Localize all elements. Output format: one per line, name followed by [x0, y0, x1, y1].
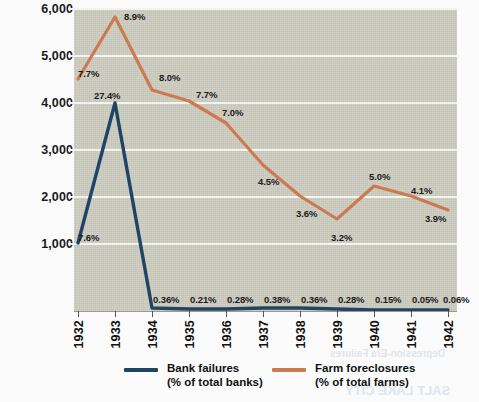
y-tick-mark-3000 — [68, 149, 74, 151]
bank-point-label-1940: 0.15% — [375, 294, 401, 305]
bank-point-label-1938: 0.36% — [301, 294, 327, 305]
farm-point-label-1941: 4.1% — [411, 185, 432, 196]
legend-item-farm-foreclosures[interactable]: Farm foreclosures (% of total farms) — [272, 362, 415, 389]
x-axis-label-1936: 1936 — [220, 320, 234, 349]
farm-point-label-1935: 7.7% — [196, 89, 217, 100]
x-axis-label-1942: 1942 — [442, 320, 456, 349]
plot-area — [74, 8, 457, 311]
bank-point-label-1935: 0.21% — [190, 294, 216, 305]
x-tick-mark-1935 — [189, 311, 190, 317]
bank-point-label-1932: 7.6% — [78, 232, 99, 243]
x-tick-mark-1933 — [115, 311, 116, 317]
farm-point-label-1932: 7.7% — [78, 68, 99, 79]
y-tick-mark-5000 — [68, 55, 74, 57]
x-tick-mark-1936 — [226, 311, 227, 317]
bank-point-label-1936: 0.28% — [227, 294, 253, 305]
gridline-5000 — [74, 55, 457, 57]
x-tick-mark-1937 — [263, 311, 264, 317]
chart-legend: Bank failures (% of total banks) Farm fo… — [0, 358, 479, 396]
gridline-1000 — [74, 243, 457, 245]
bank-point-label-1939: 0.28% — [338, 294, 364, 305]
legend-swatch-bank-failures — [124, 368, 158, 372]
x-tick-mark-1934 — [152, 311, 153, 317]
x-tick-mark-1939 — [337, 311, 338, 317]
farm-point-label-1942: 3.9% — [425, 213, 446, 224]
y-tick-mark-1000 — [68, 243, 74, 245]
legend-label-farm-foreclosures: Farm foreclosures — [315, 362, 415, 376]
farm-point-label-1934: 8.0% — [159, 72, 180, 83]
bank-point-label-1937: 0.38% — [264, 294, 290, 305]
x-tick-mark-1932 — [78, 311, 79, 317]
bank-point-label-1941: 0.05% — [412, 294, 438, 305]
farm-point-label-1936: 7.0% — [222, 107, 243, 118]
bank-point-label-1934: 0.36% — [153, 294, 179, 305]
x-tick-mark-1940 — [374, 311, 375, 317]
x-axis-label-1937: 1937 — [257, 320, 271, 349]
x-tick-mark-1942 — [448, 311, 449, 317]
x-tick-mark-1938 — [300, 311, 301, 317]
y-tick-mark-2000 — [68, 196, 74, 198]
farm-point-label-1937: 4.5% — [258, 176, 279, 187]
legend-item-bank-failures[interactable]: Bank failures (% of total banks) — [124, 362, 263, 389]
legend-label-bank-failures: Bank failures — [167, 362, 263, 376]
x-tick-mark-1941 — [411, 311, 412, 317]
gridline-4000 — [74, 102, 457, 104]
gridline-3000 — [74, 149, 457, 151]
x-axis-line — [74, 311, 457, 312]
x-axis-label-1934: 1934 — [146, 320, 160, 349]
x-axis-label-1939: 1939 — [331, 320, 345, 349]
x-axis-label-1938: 1938 — [294, 320, 308, 349]
farm-point-label-1938: 3.6% — [296, 208, 317, 219]
bank-point-label-1933: 27.4% — [94, 90, 120, 101]
legend-unit-farm-foreclosures: (% of total farms) — [315, 376, 415, 390]
bank-point-label-1942: 0.06% — [443, 294, 469, 305]
x-axis-label-1940: 1940 — [368, 320, 382, 349]
legend-unit-bank-failures: (% of total banks) — [167, 376, 263, 390]
x-axis-label-1941: 1941 — [405, 320, 419, 349]
chart-figure: Depression-Era Failures SALT LAKE CITY 6… — [0, 0, 479, 402]
gridline-2000 — [74, 196, 457, 198]
x-axis-label-1932: 1932 — [72, 320, 86, 349]
farm-point-label-1933: 8.9% — [124, 11, 145, 22]
x-axis-label-1933: 1933 — [109, 320, 123, 349]
paper-texture — [74, 8, 457, 311]
legend-swatch-farm-foreclosures — [272, 368, 306, 372]
farm-point-label-1939: 3.2% — [331, 232, 352, 243]
y-tick-mark-4000 — [68, 102, 74, 104]
x-axis-label-1935: 1935 — [183, 320, 197, 349]
farm-point-label-1940: 5.0% — [369, 171, 390, 182]
y-tick-mark-6000 — [68, 8, 74, 10]
gridline-6000 — [74, 8, 457, 10]
